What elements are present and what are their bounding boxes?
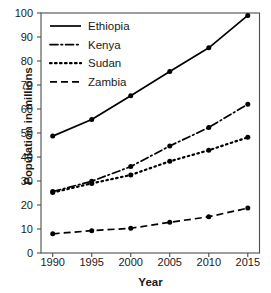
data-point	[89, 181, 94, 186]
data-point	[167, 220, 172, 225]
data-point	[245, 102, 250, 107]
data-point	[206, 148, 211, 153]
x-tick-label: 1990	[40, 257, 64, 268]
data-point	[167, 69, 172, 74]
data-point	[128, 226, 133, 231]
data-point	[167, 143, 172, 148]
x-tick-label: 2005	[158, 257, 182, 268]
data-point	[245, 135, 250, 140]
data-point	[206, 125, 211, 130]
plot-area: EthiopiaKenyaSudanZambia	[0, 0, 271, 293]
data-point	[206, 214, 211, 219]
data-point	[128, 173, 133, 178]
data-point	[50, 190, 55, 195]
x-tick-label: 2000	[118, 257, 142, 268]
data-point	[245, 13, 250, 18]
data-point	[89, 117, 94, 122]
data-point	[128, 93, 133, 98]
data-point	[245, 206, 250, 211]
legend-label-zambia: Zambia	[88, 76, 127, 88]
x-tick-label: 2015	[236, 257, 260, 268]
data-point	[50, 134, 55, 139]
data-point	[50, 231, 55, 236]
x-tick-label: 2010	[197, 257, 221, 268]
plot-frame	[41, 13, 260, 253]
legend-label-sudan: Sudan	[88, 57, 121, 69]
data-point	[89, 228, 94, 233]
legend-label-kenya: Kenya	[88, 39, 121, 51]
legend-label-ethiopia: Ethiopia	[88, 20, 130, 32]
line-chart: Population in millions Year 010203040506…	[0, 0, 271, 293]
data-point	[128, 164, 133, 169]
data-point	[206, 45, 211, 50]
x-tick-label: 1995	[79, 257, 103, 268]
data-point	[167, 159, 172, 164]
